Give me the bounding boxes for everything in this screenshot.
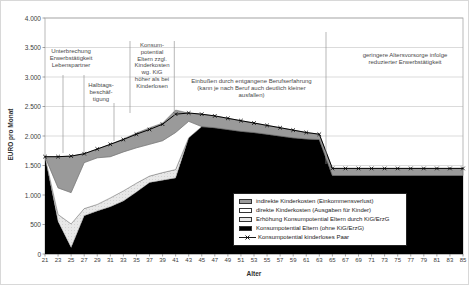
- x-tick-label: 37: [143, 257, 157, 264]
- x-tick-label: 55: [260, 257, 274, 264]
- annotation-altersvorsorge: geringere Altersvorsorge infolge reduzie…: [345, 52, 465, 66]
- legend-swatch-direct: [239, 208, 252, 213]
- x-tick-label: 31: [103, 257, 117, 264]
- legend-label: direkte Kinderkosten (Ausgaben für Kinde…: [256, 207, 371, 214]
- x-axis-title: Alter: [234, 270, 274, 277]
- annotation-einbussen: Einbußen durch entgangene Berufserfahrun…: [189, 78, 314, 98]
- x-tick-label: 77: [404, 257, 418, 264]
- x-tick-label: 75: [391, 257, 405, 264]
- x-tick-label: 85: [456, 257, 469, 264]
- annotation-konsumpotential-kig: Konsum- potential Eltern zzgl. Kinderkos…: [129, 42, 175, 90]
- x-tick-label: 81: [430, 257, 444, 264]
- x-tick-label: 53: [247, 257, 261, 264]
- legend-item: direkte Kinderkosten (Ausgaben für Kinde…: [239, 206, 402, 215]
- x-tick-label: 29: [90, 257, 104, 264]
- x-tick-label: 51: [234, 257, 248, 264]
- legend-swatch-indirect: [239, 199, 252, 204]
- legend-item: Konsumpotential Eltern (ohne KiG/ErzG): [239, 224, 402, 233]
- legend-item: Konsumpotential kinderloses Paar: [239, 233, 402, 242]
- y-tick-label: 3.000: [13, 74, 41, 81]
- x-tick-label: 79: [417, 257, 431, 264]
- x-tick-label: 73: [378, 257, 392, 264]
- x-tick-label: 41: [169, 257, 183, 264]
- x-tick-label: 49: [221, 257, 235, 264]
- x-tick-label: 57: [273, 257, 287, 264]
- x-tick-label: 67: [338, 257, 352, 264]
- y-tick-label: 0: [13, 251, 41, 258]
- y-tick-label: 2.500: [13, 103, 41, 110]
- x-tick-label: 39: [156, 257, 170, 264]
- x-tick-label: 45: [195, 257, 209, 264]
- x-tick-label: 33: [116, 257, 130, 264]
- x-tick-label: 65: [325, 257, 339, 264]
- x-tick-label: 35: [129, 257, 143, 264]
- y-tick-label: 3.500: [13, 44, 41, 51]
- y-tick-label: 1.500: [13, 162, 41, 169]
- x-tick-label: 27: [77, 257, 91, 264]
- x-tick-label: 61: [299, 257, 313, 264]
- legend-item: Erhöhung Konsumpotential Eltern durch Ki…: [239, 215, 402, 224]
- x-tick-label: 21: [38, 257, 52, 264]
- legend-label: Konsumpotential Eltern (ohne KiG/ErzG): [256, 225, 364, 232]
- x-tick-label: 71: [365, 257, 379, 264]
- legend-swatch-parents: [239, 226, 252, 231]
- legend-label: indirekte Kinderkosten (Einkommensverlus…: [256, 198, 373, 205]
- legend-label: Konsumpotential kinderloses Paar: [258, 234, 349, 241]
- y-tick-label: 500: [13, 221, 41, 228]
- x-tick-label: 83: [443, 257, 457, 264]
- x-tick-label: 69: [352, 257, 366, 264]
- y-tick-label: 1.000: [13, 192, 41, 199]
- x-tick-label: 23: [51, 257, 65, 264]
- x-tick-label: 59: [286, 257, 300, 264]
- x-tick-label: 63: [312, 257, 326, 264]
- legend-line-swatch: [239, 234, 256, 241]
- x-tick-label: 47: [208, 257, 222, 264]
- annotation-unterbrechung: Unterbrechung Erwerbstätigkeit Lebenspar…: [45, 48, 97, 68]
- chart: EURO pro Monat Alter 05001.0001.5002.000…: [0, 0, 469, 285]
- y-tick-label: 2.000: [13, 133, 41, 140]
- x-tick-label: 25: [64, 257, 78, 264]
- legend-label: Erhöhung Konsumpotential Eltern durch Ki…: [256, 216, 389, 223]
- legend: indirekte Kinderkosten (Einkommensverlus…: [233, 193, 407, 246]
- y-tick-label: 4.000: [13, 15, 41, 22]
- x-tick-label: 43: [182, 257, 196, 264]
- annotation-halbtags: Halbtags- beschäf- tigung: [85, 82, 117, 102]
- legend-swatch-kig: [239, 217, 252, 222]
- legend-item: indirekte Kinderkosten (Einkommensverlus…: [239, 197, 402, 206]
